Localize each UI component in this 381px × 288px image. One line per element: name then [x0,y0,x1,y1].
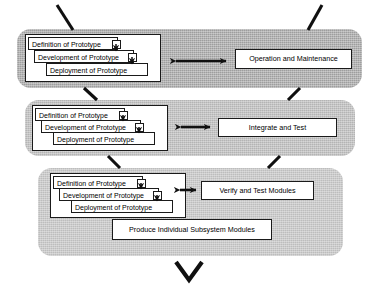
phase-box-label: Integrate and Test [219,124,336,132]
prototype-step-label: Deployment of Prototype [57,135,151,142]
prototype-step-box-deployment-2[interactable]: Deployment of Prototype [53,132,155,145]
prototype-step-label: Definition of Prototype [57,179,139,186]
prototype-step-label: Development of Prototype [38,53,130,60]
diagram-canvas: Definition of Prototype Development of P… [0,0,381,288]
prototype-step-box-deployment-1[interactable]: Deployment of Prototype [46,63,148,76]
connector-square-2b [135,123,144,132]
connector-square-1a [112,40,121,49]
connector-square-2a [119,111,128,120]
prototype-step-box-development-1[interactable]: Development of Prototype [34,50,134,63]
bottom-v-arrowhead [176,262,202,280]
phase-box-integrate-and-test[interactable]: Integrate and Test [218,118,337,137]
prototype-step-box-definition-1[interactable]: Definition of Prototype [28,37,118,50]
band2-band3-left-diagonal [108,156,120,168]
connector-square-3a [137,179,146,188]
prototype-step-label: Development of Prototype [63,191,155,198]
prototype-step-label: Definition of Prototype [32,40,114,47]
phase-box-produce-individual-subsystem-modules[interactable]: Produce Individual Subsystem Modules [112,219,272,240]
connector-square-3b [153,191,162,200]
prototype-step-label: Deployment of Prototype [50,66,144,73]
top-right-diagonal [308,5,322,30]
phase-box-operation-and-maintenance[interactable]: Operation and Maintenance [235,49,352,69]
phase-box-label: Verify and Test Modules [202,187,313,195]
prototype-step-box-deployment-3[interactable]: Deployment of Prototype [71,200,173,213]
prototype-step-label: Definition of Prototype [39,111,121,118]
top-left-diagonal [57,5,73,30]
band1-band2-right-diagonal [288,88,300,100]
prototype-step-label: Deployment of Prototype [75,203,169,210]
band2-band3-right-diagonal [268,156,280,168]
band1-band2-left-diagonal [84,88,97,100]
prototype-step-label: Development of Prototype [45,123,137,130]
phase-box-label: Operation and Maintenance [236,55,351,63]
phase-box-label: Produce Individual Subsystem Modules [113,226,271,234]
phase-box-verify-and-test-modules[interactable]: Verify and Test Modules [201,181,314,200]
connector-square-1b [128,53,137,62]
